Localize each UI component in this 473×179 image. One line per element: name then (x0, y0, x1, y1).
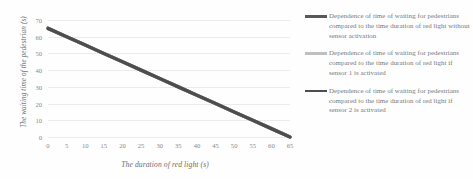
legend-item-label: Dependence of time of waiting for pedest… (329, 48, 471, 77)
y-tick-label: 30 (22, 83, 42, 90)
x-tick-label: 60 (261, 142, 281, 149)
series-line-3 (48, 28, 290, 137)
gridline (48, 137, 290, 138)
x-tick-label: 0 (38, 142, 58, 149)
chart-plot-area-container: The waiting time of the pedestrian (s) 0… (0, 0, 300, 179)
chart-legend: Dependence of time of waiting for pedest… (305, 11, 471, 123)
legend-swatch-icon (305, 52, 327, 55)
y-tick-label: 10 (22, 117, 42, 124)
x-tick-label: 55 (243, 142, 263, 149)
y-tick-label: 60 (22, 33, 42, 40)
x-tick-label: 10 (75, 142, 95, 149)
legend-item-label: Dependence of time of waiting for pedest… (329, 86, 471, 115)
data-series-lines (48, 20, 290, 137)
legend-swatch-icon (305, 90, 327, 93)
x-axis-title: The duration of red light (s) (40, 160, 290, 169)
legend-item-label: Dependence of time of waiting for pedest… (329, 11, 471, 40)
x-tick-label: 20 (112, 142, 132, 149)
legend-item-1[interactable]: Dependence of time of waiting for pedest… (305, 11, 471, 40)
legend-item-3[interactable]: Dependence of time of waiting for pedest… (305, 86, 471, 115)
y-tick-label: 40 (22, 67, 42, 74)
x-tick-label: 5 (57, 142, 77, 149)
x-tick-label: 30 (150, 142, 170, 149)
x-tick-label: 50 (224, 142, 244, 149)
legend-swatch-icon (305, 15, 327, 18)
chart-figure: The waiting time of the pedestrian (s) 0… (0, 0, 473, 179)
x-tick-label: 65 (280, 142, 300, 149)
y-tick-label: 70 (22, 17, 42, 24)
legend-item-2[interactable]: Dependence of time of waiting for pedest… (305, 48, 471, 77)
x-tick-label: 15 (94, 142, 114, 149)
x-tick-label: 45 (206, 142, 226, 149)
x-tick-label: 40 (187, 142, 207, 149)
plot-area: 010203040506070 051015202530354045505560… (48, 20, 290, 137)
x-tick-label: 25 (131, 142, 151, 149)
x-tick-label: 35 (168, 142, 188, 149)
y-tick-label: 20 (22, 100, 42, 107)
y-tick-label: 50 (22, 50, 42, 57)
y-tick-label: 0 (22, 134, 42, 141)
